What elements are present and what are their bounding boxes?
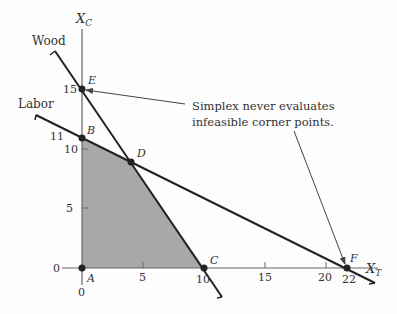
label-d: D bbox=[136, 147, 146, 160]
point-b bbox=[79, 135, 86, 142]
label-b: B bbox=[86, 124, 95, 137]
point-a bbox=[79, 265, 86, 272]
arrow-to-e bbox=[86, 90, 185, 104]
wood-label: Wood bbox=[32, 34, 66, 48]
label-e: E bbox=[87, 74, 96, 87]
arrow-to-f bbox=[294, 131, 345, 264]
x-tick-label-5: 5 bbox=[139, 271, 146, 284]
x-tick-label-0: 0 bbox=[78, 286, 85, 299]
lp-graph: XC XT 0 5 10 11 15 0 5 10 15 20 22 Wood … bbox=[0, 0, 397, 314]
point-d bbox=[128, 159, 135, 166]
labor-label: Labor bbox=[18, 97, 54, 111]
label-a: A bbox=[86, 272, 95, 285]
x-axis-label: XT bbox=[365, 261, 382, 278]
x-tick-label-15: 15 bbox=[258, 271, 272, 284]
wood-direction-icon bbox=[50, 51, 55, 55]
y-tick-label-15: 15 bbox=[63, 83, 77, 96]
y-tick-label-10: 10 bbox=[64, 143, 78, 156]
labor-direction-icon bbox=[35, 115, 36, 120]
y-tick-label-0: 0 bbox=[53, 262, 60, 275]
x-tick-label-20: 20 bbox=[318, 271, 332, 284]
annotation-line-1: Simplex never evaluates bbox=[192, 99, 335, 113]
x-tick-label-22: 22 bbox=[342, 273, 356, 286]
point-f bbox=[344, 265, 351, 272]
wood-direction-icon bbox=[217, 297, 222, 298]
y-tick-label-11: 11 bbox=[50, 130, 64, 143]
label-f: F bbox=[349, 252, 358, 265]
label-c: C bbox=[210, 254, 219, 267]
labor-direction-icon bbox=[369, 283, 375, 284]
y-tick-label-5: 5 bbox=[66, 202, 73, 215]
point-e bbox=[79, 86, 86, 93]
point-c bbox=[201, 265, 208, 272]
y-axis-label: XC bbox=[75, 11, 92, 28]
annotation-line-2: infeasible corner points. bbox=[192, 115, 334, 129]
x-tick-label-10: 10 bbox=[196, 273, 210, 286]
